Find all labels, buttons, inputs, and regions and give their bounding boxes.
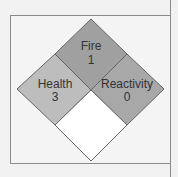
reactivity-value: 0 (124, 90, 131, 104)
health-value: 3 (52, 90, 59, 104)
health-label: Health (38, 77, 73, 91)
reactivity-label: Reactivity (101, 77, 153, 91)
hazard-diamond: Fire 1 Health 3 Reactivity 0 (0, 0, 178, 177)
fire-value: 1 (88, 53, 95, 67)
fire-label: Fire (81, 39, 102, 53)
